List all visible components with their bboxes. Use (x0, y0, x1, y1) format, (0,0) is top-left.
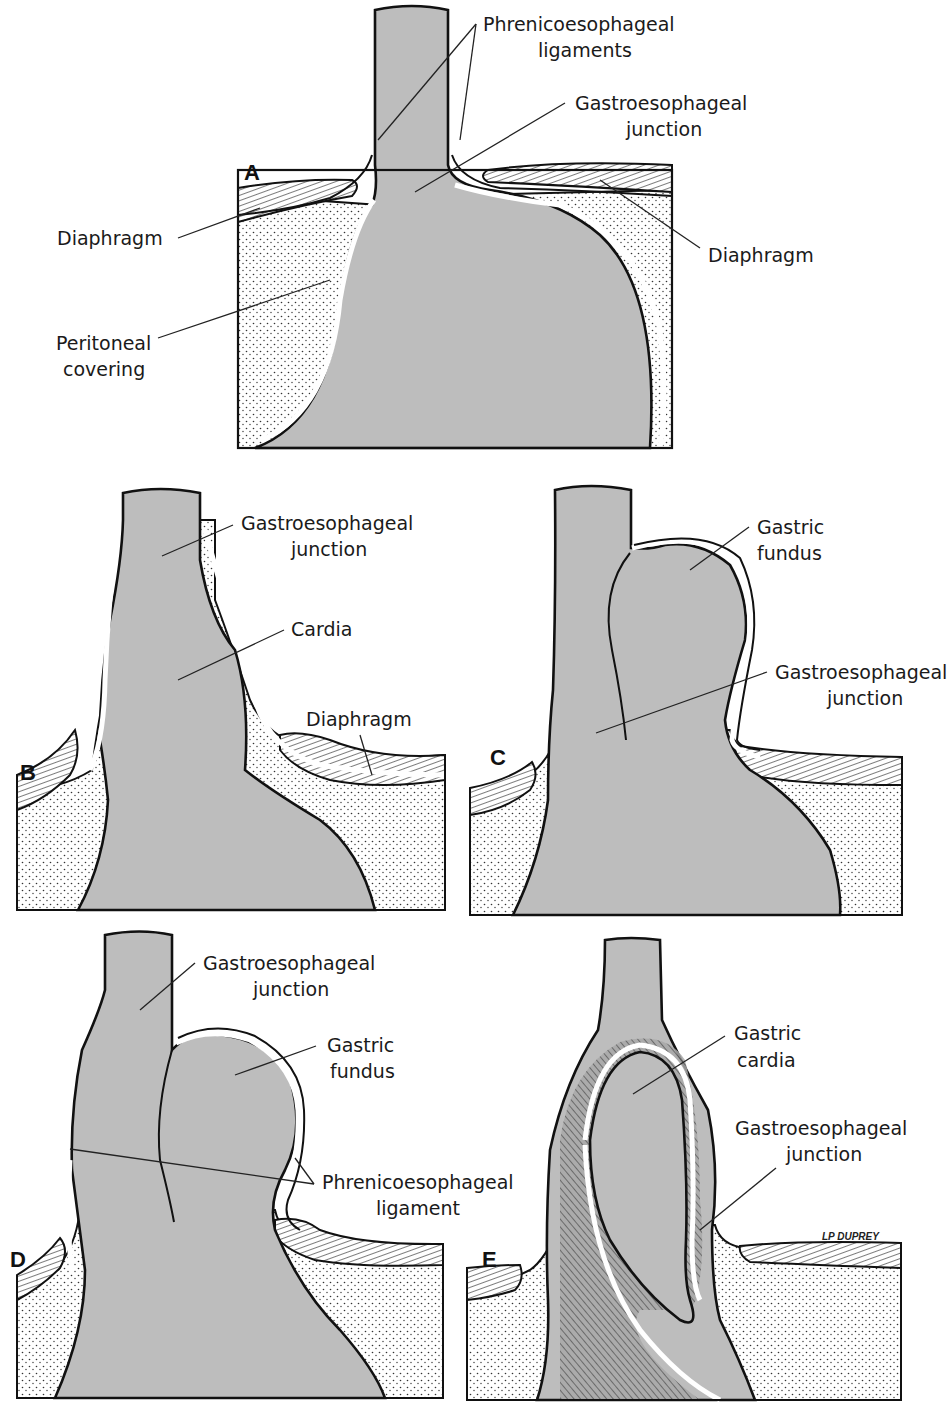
svg-text:Diaphragm: Diaphragm (708, 244, 814, 266)
svg-text:Diaphragm: Diaphragm (306, 708, 412, 730)
svg-text:Gastric: Gastric (327, 1034, 394, 1056)
panel-label-b: B (20, 760, 36, 785)
svg-text:junction: junction (290, 538, 367, 560)
panel-label-a: A (244, 160, 260, 185)
svg-text:Phrenicoesophageal: Phrenicoesophageal (483, 13, 675, 35)
svg-text:Phrenicoesophageal: Phrenicoesophageal (322, 1171, 514, 1193)
svg-text:Gastroesophageal: Gastroesophageal (241, 512, 413, 534)
svg-text:junction: junction (826, 687, 903, 709)
panel-c: C Gastric fundus Gastroesophageal juncti… (470, 486, 947, 915)
svg-text:covering: covering (63, 358, 145, 380)
svg-text:ligaments: ligaments (538, 39, 632, 61)
annotation-diaphragm-left: Diaphragm (57, 208, 260, 249)
svg-text:Cardia: Cardia (291, 618, 352, 640)
hiatal-hernia-figure: A Phrenicoesophageal ligaments Gastroeso… (0, 0, 949, 1415)
svg-text:Gastroesophageal: Gastroesophageal (575, 92, 747, 114)
panel-a: A Phrenicoesophageal ligaments Gastroeso… (56, 6, 814, 448)
svg-text:ligament: ligament (376, 1197, 460, 1219)
artist-signature: LP DUPREY (822, 1231, 880, 1242)
svg-text:junction: junction (625, 118, 702, 140)
svg-text:Gastric: Gastric (757, 516, 824, 538)
panel-b: B Gastroesophageal junction Cardia Diaph… (17, 489, 445, 910)
panel-e: E LP DUPREY Gastric cardia Gastroesophag… (467, 938, 907, 1400)
svg-text:cardia: cardia (737, 1049, 796, 1071)
svg-text:Diaphragm: Diaphragm (57, 227, 163, 249)
svg-text:junction: junction (785, 1143, 862, 1165)
svg-text:fundus: fundus (757, 542, 822, 564)
svg-text:Gastroesophageal: Gastroesophageal (203, 952, 375, 974)
svg-text:Gastroesophageal: Gastroesophageal (775, 661, 947, 683)
panel-d: D Gastroesophageal junction Gastric fund… (10, 932, 514, 1399)
svg-text:Gastric: Gastric (734, 1022, 801, 1044)
svg-text:junction: junction (252, 978, 329, 1000)
svg-text:Gastroesophageal: Gastroesophageal (735, 1117, 907, 1139)
svg-text:Peritoneal: Peritoneal (56, 332, 151, 354)
panel-label-c: C (490, 745, 506, 770)
annotation-gastroesophageal-junction-e: Gastroesophageal junction (700, 1117, 907, 1230)
panel-label-e: E (482, 1247, 497, 1272)
annotation-gastroesophageal-junction-d: Gastroesophageal junction (140, 952, 375, 1010)
svg-text:fundus: fundus (330, 1060, 395, 1082)
panel-label-d: D (10, 1247, 26, 1272)
